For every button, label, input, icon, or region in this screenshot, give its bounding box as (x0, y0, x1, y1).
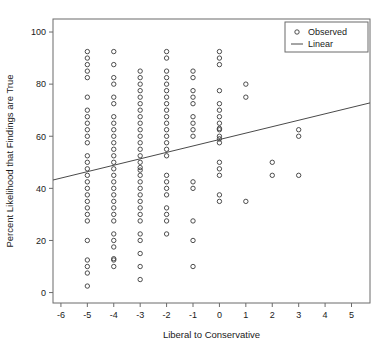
x-tick-label: 4 (323, 310, 328, 320)
data-point (244, 82, 248, 86)
data-point (112, 186, 116, 190)
data-point (112, 173, 116, 177)
data-point (138, 160, 142, 164)
data-point (244, 95, 248, 99)
axes-layer: -6-5-4-3-2-1012345020406080100 (31, 19, 370, 320)
y-axis-title: Percent Likelihood that Findings are Tru… (4, 74, 15, 247)
data-point (112, 115, 116, 119)
data-point (191, 121, 195, 125)
x-tick-label: -4 (110, 310, 118, 320)
data-point (296, 134, 300, 138)
data-point (85, 167, 89, 171)
legend-label: Linear (308, 39, 333, 49)
data-point (191, 238, 195, 242)
data-point (138, 173, 142, 177)
data-point (164, 95, 168, 99)
data-point (85, 180, 89, 184)
data-point (85, 173, 89, 177)
data-point (164, 147, 168, 151)
x-tick-label: -6 (57, 310, 65, 320)
x-tick-label: -5 (83, 310, 91, 320)
data-point (138, 251, 142, 255)
scatter-chart: -6-5-4-3-2-1012345020406080100 ObservedL… (0, 0, 385, 352)
data-point (112, 219, 116, 223)
data-point (217, 49, 221, 53)
data-point (217, 160, 221, 164)
data-point (85, 238, 89, 242)
data-point (217, 167, 221, 171)
data-point (138, 75, 142, 79)
data-point (164, 108, 168, 112)
data-point (138, 193, 142, 197)
data-point (112, 154, 116, 158)
x-tick-label: 0 (217, 310, 222, 320)
data-point (217, 108, 221, 112)
data-point (191, 128, 195, 132)
data-point (191, 186, 195, 190)
data-point (112, 160, 116, 164)
x-tick-label: -3 (136, 310, 144, 320)
regression-line (53, 103, 370, 180)
data-point (138, 128, 142, 132)
x-tick-label: 5 (349, 310, 354, 320)
data-point (112, 167, 116, 171)
data-point (191, 69, 195, 73)
data-point (138, 238, 142, 242)
data-point (217, 173, 221, 177)
data-point (112, 75, 116, 79)
data-point (138, 101, 142, 105)
data-point (164, 128, 168, 132)
data-point (112, 62, 116, 66)
data-points-layer (85, 49, 301, 288)
data-point (112, 121, 116, 125)
axis-titles-layer: Liberal to ConservativePercent Likelihoo… (4, 74, 260, 340)
x-tick-label: 1 (243, 310, 248, 320)
data-point (164, 115, 168, 119)
data-point (85, 186, 89, 190)
data-point (85, 199, 89, 203)
data-point (138, 141, 142, 145)
data-point (164, 154, 168, 158)
data-point (138, 219, 142, 223)
y-tick-label: 100 (31, 27, 46, 37)
data-point (217, 101, 221, 105)
data-point (112, 199, 116, 203)
data-point (112, 134, 116, 138)
data-point (164, 121, 168, 125)
data-point (191, 75, 195, 79)
data-point (217, 62, 221, 66)
data-point (164, 88, 168, 92)
data-point (85, 115, 89, 119)
data-point (138, 154, 142, 158)
data-point (85, 264, 89, 268)
data-point (112, 180, 116, 184)
data-point (85, 258, 89, 262)
data-point (138, 95, 142, 99)
data-point (191, 180, 195, 184)
data-point (191, 115, 195, 119)
y-tick-label: 80 (36, 79, 46, 89)
data-point (164, 101, 168, 105)
data-point (85, 193, 89, 197)
y-tick-label: 40 (36, 184, 46, 194)
data-point (217, 199, 221, 203)
data-point (85, 206, 89, 210)
data-point (85, 154, 89, 158)
data-point (164, 186, 168, 190)
y-tick-label: 60 (36, 132, 46, 142)
data-point (138, 186, 142, 190)
x-axis-title: Liberal to Conservative (163, 329, 260, 340)
data-point (217, 115, 221, 119)
data-point (191, 88, 195, 92)
data-point (138, 121, 142, 125)
data-point (112, 147, 116, 151)
legend-label: Observed (308, 27, 347, 37)
data-point (191, 101, 195, 105)
data-point (164, 49, 168, 53)
x-tick-label: 2 (270, 310, 275, 320)
data-point (164, 69, 168, 73)
data-point (217, 56, 221, 60)
data-point (270, 173, 274, 177)
data-point (112, 206, 116, 210)
data-point (85, 141, 89, 145)
